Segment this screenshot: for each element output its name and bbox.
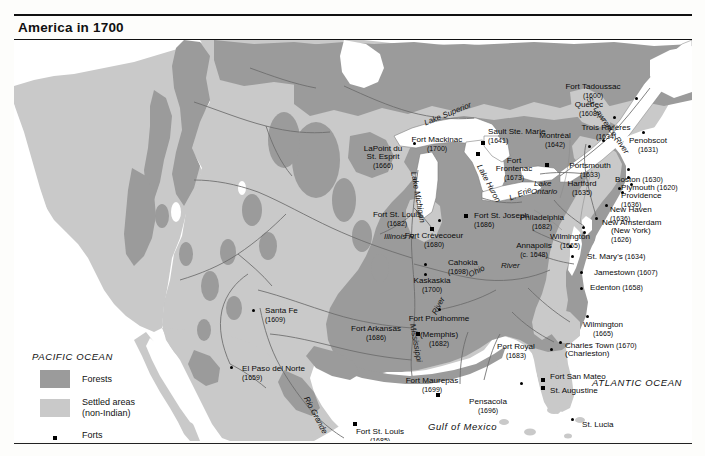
page-bottom-rule [14,443,692,444]
place-year: (1683) [456,352,576,360]
place-label: Frontenac(1673) [454,165,574,182]
water-label: Illinois R. [384,232,416,241]
place-label: Fort Prudhomme [379,315,499,324]
place-label: Wilmington(1665) [543,321,663,338]
place-year: (1641) [488,137,546,145]
place-name: Kaskaskia [414,276,451,285]
town-marker [252,309,255,312]
place-name: Port Royal [497,342,535,351]
place-name: Sault Ste. Marie [488,127,546,136]
place-year: (1665) [543,330,663,338]
place-year: (1699) [372,386,492,394]
place-name: Fort Maurepas [406,376,459,385]
legend-item-settled: Settled areas (non-Indian) [40,397,135,419]
place-name: Edenton [590,283,620,292]
forest-swatch [40,370,70,388]
place-label: Fort Maurepas(1699) [372,377,492,394]
place-label: St. Esprit(1666) [323,153,443,170]
place-label: Santa Fe(1609) [265,307,298,324]
fort-marker [436,393,440,397]
place-label: Edenton (1658) [590,284,643,293]
place-year: (1609) [265,316,298,324]
place-name: Annapolis [516,241,552,250]
town-marker [424,263,427,266]
place-name: Fort Tadoussac [565,82,620,91]
place-label: Pensacola(1696) [428,398,548,415]
place-year: (1682) [337,220,457,228]
place-name: Jamestown [594,268,635,277]
place-name: Fort Arkansas [351,324,401,333]
place-name: Cahokia [448,258,478,267]
water-label: Ontario [531,187,557,196]
place-year: (1666) [323,162,443,170]
ocean-label: ATLANTIC OCEAN [592,377,682,388]
place-name: Fort St. Joseph [474,211,529,220]
place-year: (1673) [454,174,574,182]
place-name: New Haven [610,205,652,214]
place-year: (1680) [374,241,494,249]
fort-marker [476,152,480,156]
place-name: Wilmington [550,232,590,241]
fort-marker [353,422,357,426]
place-label: Penobscot(1631) [588,137,692,154]
place-name: Providence [621,191,662,200]
place-year: (1634) [623,252,646,261]
place-label: St. Augustine [550,387,598,396]
place-label: Kaskaskia(1700) [372,277,492,294]
place-name: Pensacola [469,397,507,406]
place-name: Fort St. Louis [356,427,404,436]
square-marker-icon [40,426,70,441]
settled-swatch [40,399,70,417]
place-name: St. Mary's [587,252,623,261]
place-name: Fort Mackinac [412,135,463,144]
place-year: (1658) [620,283,643,292]
place-label: El Paso del Norte(1659) [242,365,305,382]
place-name: Fort St. Louis [373,210,421,219]
legend-item-forests: Forests [40,370,112,388]
place-label: St. Mary's (1634) [587,253,646,262]
legend-label-forts: Forts [82,430,103,441]
place-label: Fort St. Joseph(1686) [474,212,529,229]
place-label: Sault Ste. Marie(1641) [488,128,546,145]
town-marker [586,315,589,318]
place-year: (1696) [428,407,548,415]
page-title: America in 1700 [18,18,124,37]
place-name: St. Lucia [582,420,614,429]
town-marker [580,271,583,274]
place-year: (1700) [372,286,492,294]
title-top-rule [14,14,692,16]
place-label: Fort St. Louis(1682) [337,211,457,228]
map-canvas: Fort Tadoussac(1600)Québec(1608)Trois Ri… [14,40,692,441]
fort-marker [464,214,468,218]
town-marker [571,255,574,258]
town-marker [580,287,583,290]
ocean-label: Gulf of Mexico [428,421,497,432]
place-year: (c. 1648) [474,251,594,259]
legend-label-settled: Settled areas (non-Indian) [82,397,135,419]
fort-marker [481,141,485,145]
place-year: (1631) [588,146,692,154]
place-year: (1607) [635,268,658,277]
fort-marker [541,378,545,382]
ocean-label: PACIFIC OCEAN [32,351,113,362]
place-year: (1670) [614,341,637,350]
place-label: St. Lucia [582,421,614,430]
town-marker [520,382,523,385]
place-name: Santa Fe [265,306,298,315]
place-name: Wilmington [583,320,623,329]
map-page: America in 1700 [0,0,705,456]
place-name: El Paso del Norte [242,364,305,373]
town-marker [642,131,645,134]
place-name: St. Esprit [367,152,400,161]
water-label: River [501,261,520,270]
place-year: (1659) [242,374,305,382]
place-name: Portsmouth [569,161,610,170]
place-year: (1608) [529,110,649,118]
town-marker [605,204,608,207]
place-name: Fort Prudhomme [409,314,470,323]
place-label: Fort St. Louis(1685) [320,428,440,441]
fort-marker [541,386,545,390]
place-year: (1686) [474,221,529,229]
place-year: (1685) [320,437,440,441]
town-marker [230,366,233,369]
